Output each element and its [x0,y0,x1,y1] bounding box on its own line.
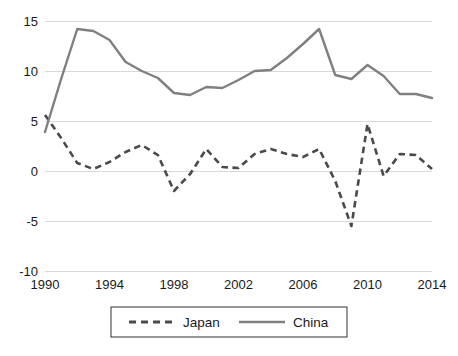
x-tick-label: 1990 [31,277,60,292]
x-tick-label: 1994 [95,277,124,292]
legend-label-japan[interactable]: Japan [183,315,220,330]
chart-canvas: 151050-5-10 1990199419982002200620102014… [0,0,458,356]
y-tick-label: 10 [24,64,38,79]
x-tick-label: 2014 [418,277,447,292]
line-chart: 151050-5-10 1990199419982002200620102014… [0,0,458,356]
legend-label-china[interactable]: China [293,315,329,330]
y-tick-label: 0 [31,164,38,179]
x-tick-label: 2002 [224,277,253,292]
y-tick-label: 5 [31,114,38,129]
y-tick-label: 15 [24,14,38,29]
y-tick-label: -5 [26,214,38,229]
chart-legend[interactable]: JapanChina [111,307,347,337]
x-tick-label: 2010 [353,277,382,292]
x-tick-label: 2006 [289,277,318,292]
x-tick-label: 1998 [160,277,189,292]
